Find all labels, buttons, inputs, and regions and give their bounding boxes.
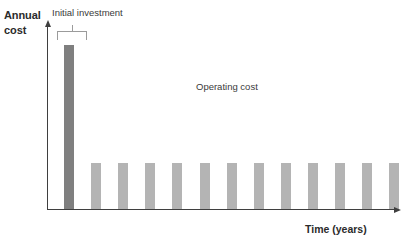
bar-initial-investment: [64, 45, 74, 209]
initial-investment-bracket: [57, 31, 87, 40]
bar-operating-cost: [281, 163, 291, 209]
bar-operating-cost: [362, 163, 372, 209]
bar-operating-cost: [91, 163, 101, 209]
initial-investment-bracket-tick: [72, 25, 73, 32]
chart-canvas: Annual cost Time (years) Initial investm…: [0, 0, 412, 246]
operating-cost-annotation-label: Operating cost: [196, 81, 258, 92]
bar-operating-cost: [145, 163, 155, 209]
x-axis-line: [47, 209, 398, 210]
bar-operating-cost: [227, 163, 237, 209]
y-axis-label: Annual cost: [4, 8, 48, 38]
bar-operating-cost: [254, 163, 264, 209]
bar-operating-cost: [172, 163, 182, 209]
bar-operating-cost: [389, 163, 399, 209]
bar-operating-cost: [118, 163, 128, 209]
bar-operating-cost: [200, 163, 210, 209]
bar-operating-cost: [335, 163, 345, 209]
x-axis-label: Time (years): [305, 223, 367, 235]
y-axis-line: [47, 26, 48, 210]
bar-operating-cost: [308, 163, 318, 209]
initial-investment-annotation-label: Initial investment: [52, 7, 123, 18]
x-axis-arrow-icon: [394, 207, 401, 213]
